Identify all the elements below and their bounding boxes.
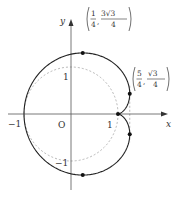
y-axis-arrow-icon xyxy=(69,19,74,26)
comma: , xyxy=(97,17,99,26)
point-label-top: 1 4 , 3√3 4 xyxy=(87,7,131,31)
right-paren xyxy=(167,67,169,91)
left-paren xyxy=(133,67,135,91)
fraction-y-num: √3 xyxy=(148,69,158,78)
origin-label: O xyxy=(58,120,65,130)
curve-point-0 xyxy=(81,51,85,55)
fraction-x-den: 4 xyxy=(137,80,142,89)
fraction-y-num: 3√3 xyxy=(101,9,116,18)
cardioid-diagram: x y O −1 1 1 −1 1 4 , 3√3 4 5 4 , √3 4 xyxy=(0,0,184,203)
right-paren xyxy=(129,7,131,31)
fraction-x-den: 4 xyxy=(91,20,96,29)
point-label-right: 5 4 , √3 4 xyxy=(133,67,169,91)
x-tick-label-1: 1 xyxy=(107,120,113,130)
fraction-x-num: 1 xyxy=(91,9,96,18)
y-axis-label: y xyxy=(59,16,66,26)
fraction-x-num: 5 xyxy=(137,69,142,78)
y-tick-label-1: 1 xyxy=(63,72,69,82)
left-paren xyxy=(87,7,89,31)
x-axis-arrow-icon xyxy=(161,112,168,117)
fraction-y-den: 4 xyxy=(111,20,116,29)
comma: , xyxy=(143,77,145,86)
y-tick-label-neg1: −1 xyxy=(55,158,68,168)
curve-point-2 xyxy=(116,112,120,116)
curve-point-1 xyxy=(128,92,132,96)
fraction-y-den: 4 xyxy=(153,80,158,89)
x-axis-label: x xyxy=(166,119,171,129)
curve-point-3 xyxy=(128,132,132,136)
curve-point-4 xyxy=(81,173,85,177)
x-tick-label-neg1: −1 xyxy=(8,119,21,129)
